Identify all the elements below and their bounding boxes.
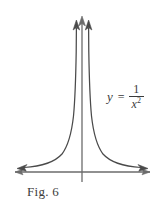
equation-lhs: y (107, 90, 113, 103)
equation-fraction: 1 x2 (129, 83, 144, 110)
fraction-denominator: x2 (129, 97, 144, 110)
figure-caption: Fig. 6 (27, 184, 59, 200)
equation-operator: = (118, 91, 125, 103)
fraction-numerator: 1 (130, 83, 142, 96)
curve-left-branch (24, 28, 76, 168)
denominator-exponent: 2 (137, 96, 141, 105)
equation-annotation: y = 1 x2 (107, 83, 144, 110)
figure-container: y = 1 x2 Fig. 6 (0, 0, 165, 209)
